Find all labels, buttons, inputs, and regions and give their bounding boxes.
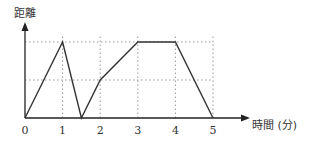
- x-tick-label: 4: [172, 124, 179, 137]
- x-tick-label: 2: [97, 124, 104, 137]
- x-tick-label: 3: [134, 124, 141, 137]
- x-axis-label: 時間 (分): [252, 119, 297, 132]
- x-tick-label: 5: [210, 124, 217, 137]
- y-axis-label: 距離: [14, 6, 36, 20]
- y-axis-arrow-icon: [22, 22, 29, 31]
- grid: [25, 34, 213, 118]
- x-tick-label: 1: [59, 124, 66, 137]
- distance-time-chart: 距離 時間 (分) 012345: [0, 0, 312, 146]
- x-axis-arrow-icon: [241, 115, 250, 122]
- x-tick-label: 0: [22, 124, 29, 137]
